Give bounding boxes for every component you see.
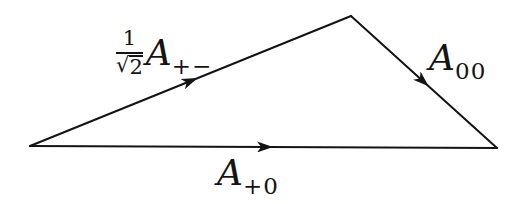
- radicand: 2: [129, 55, 142, 78]
- label-a-plus-zero: A +0: [214, 155, 279, 191]
- label-a-plus-minus: 1 √ 2 A +−: [116, 28, 212, 78]
- amplitude-triangle-figure: 1 √ 2 A +− A 00 A +0: [0, 0, 526, 204]
- amplitude-term-a-plus-zero: A +0: [217, 155, 279, 191]
- amplitude-subscript: +0: [243, 175, 279, 198]
- amplitude-term-a-zero-zero: A 00: [429, 40, 486, 76]
- label-a-zero-zero: A 00: [426, 40, 486, 76]
- amplitude-subscript: 00: [455, 60, 486, 83]
- amplitude-subscript: +−: [172, 55, 213, 78]
- radical-sign: √: [116, 55, 129, 76]
- fraction-denominator: √ 2: [116, 52, 143, 78]
- amplitude-symbol: A: [217, 155, 243, 191]
- fraction-one-over-sqrt-two: 1 √ 2: [116, 28, 143, 78]
- amplitude-symbol: A: [429, 40, 455, 76]
- amplitude-term-a-plus-minus: A +−: [146, 35, 213, 71]
- edge-a-plus-zero: [30, 146, 497, 148]
- amplitude-symbol: A: [146, 35, 172, 71]
- fraction-numerator: 1: [118, 28, 141, 52]
